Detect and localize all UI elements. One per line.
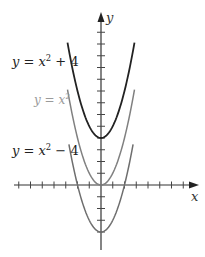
curve-label-1: y = x2: [33, 92, 70, 107]
curve-label-0: y = x2 + 4: [11, 53, 79, 69]
chart-canvas: y = x2 + 4y = x2y = x2 − 4 x y: [0, 0, 205, 257]
curve-labels: y = x2 + 4y = x2y = x2 − 4: [11, 53, 79, 158]
y-axis-label: y: [105, 10, 114, 25]
axes: [14, 12, 199, 250]
parabola-translation-chart: y = x2 + 4y = x2y = x2 − 4 x y: [0, 0, 205, 257]
x-axis-arrow-icon: [189, 182, 199, 189]
x-axis-label: x: [191, 189, 199, 204]
curve-label-2: y = x2 − 4: [11, 142, 79, 158]
y-axis-arrow-icon: [98, 12, 105, 22]
